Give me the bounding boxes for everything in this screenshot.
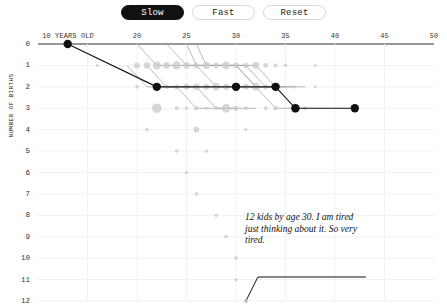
x-axis-tick-label: 25 bbox=[182, 32, 191, 40]
y-axis-tick-label: 2 bbox=[14, 83, 30, 91]
annotation-text: 12 kids by age 30. I am tired just think… bbox=[245, 212, 357, 247]
speed-control-toolbar: Slow Fast Reset bbox=[0, 2, 447, 22]
y-axis-tick-label: 10 bbox=[14, 254, 30, 262]
x-axis-tick-label: 50 bbox=[430, 32, 439, 40]
annotation-leader-line bbox=[0, 26, 447, 305]
x-axis-tick-label: 40 bbox=[331, 32, 340, 40]
x-axis-tick-label: 45 bbox=[380, 32, 389, 40]
y-axis-tick-label: 9 bbox=[14, 233, 30, 241]
y-axis-tick-label: 4 bbox=[14, 126, 30, 134]
y-axis-tick-label: 0 bbox=[14, 40, 30, 48]
x-axis-tick-label: 10 YEARS OLD bbox=[42, 32, 94, 40]
reset-button[interactable]: Reset bbox=[263, 5, 326, 20]
y-axis-tick-label: 1 bbox=[14, 61, 30, 69]
y-axis-tick-label: 7 bbox=[14, 190, 30, 198]
y-axis-tick-label: 5 bbox=[14, 147, 30, 155]
y-axis-tick-label: 11 bbox=[14, 276, 30, 284]
y-axis-tick-label: 8 bbox=[14, 211, 30, 219]
x-axis-tick-label: 30 bbox=[232, 32, 241, 40]
slow-button[interactable]: Slow bbox=[121, 5, 184, 20]
plot-area[interactable] bbox=[0, 26, 447, 305]
births-visualization: Slow Fast Reset NUMBER OF BIRTHS 10 YEAR… bbox=[0, 0, 447, 305]
y-axis-tick-label: 6 bbox=[14, 169, 30, 177]
x-axis-tick-label: 20 bbox=[133, 32, 142, 40]
y-axis-tick-label: 3 bbox=[14, 104, 30, 112]
y-axis-tick-label: 12 bbox=[14, 297, 30, 305]
x-axis-tick-label: 35 bbox=[281, 32, 290, 40]
scatter-chart: NUMBER OF BIRTHS 10 YEARS OLD20253035404… bbox=[0, 26, 447, 305]
fast-button[interactable]: Fast bbox=[192, 5, 255, 20]
